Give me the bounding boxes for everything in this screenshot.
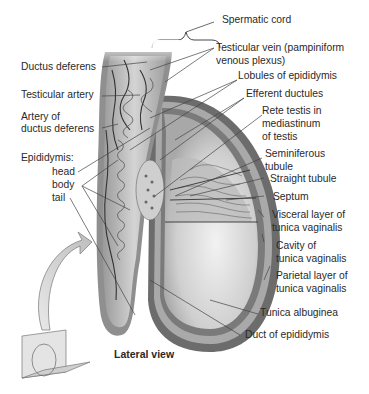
label-cavity-1: Cavity of xyxy=(276,240,316,252)
orientation-inset xyxy=(22,330,90,378)
label-visceral-1: Visceral layer of xyxy=(272,209,345,221)
label-epididymis-tail: tail xyxy=(52,192,65,204)
label-testicular-vein-2: venous plexus) xyxy=(216,55,285,67)
label-parietal-1: Parietal layer of xyxy=(276,270,348,282)
label-rete-testis-1: Rete testis in xyxy=(262,105,322,117)
orientation-arrow xyxy=(38,232,92,330)
label-epididymis: Epididymis: xyxy=(21,152,74,164)
label-seminiferous-1: Seminiferous xyxy=(265,148,325,160)
label-cavity-2: tunica vaginalis xyxy=(276,253,346,265)
label-rete-testis-2: mediastinum xyxy=(262,118,320,130)
label-epididymis-body: body xyxy=(52,179,74,191)
label-tunica-albuginea: Tunica albuginea xyxy=(260,307,338,319)
label-testicular-vein-1: Testicular vein (pampiniform xyxy=(216,42,344,54)
label-testicular-artery: Testicular artery xyxy=(21,89,94,101)
view-caption: Lateral view xyxy=(114,348,174,360)
label-spermatic-cord: Spermatic cord xyxy=(222,14,291,26)
label-lobules-of-epididymis: Lobules of epididymis xyxy=(238,70,337,82)
label-artery-ductus-2: ductus deferens xyxy=(21,123,94,135)
label-straight-tubule: Straight tubule xyxy=(270,173,336,185)
label-septum: Septum xyxy=(273,191,309,203)
label-artery-ductus-1: Artery of xyxy=(21,111,60,123)
label-parietal-2: tunica vaginalis xyxy=(276,283,346,295)
label-seminiferous-2: tubule xyxy=(265,161,293,173)
label-efferent-ductules: Efferent ductules xyxy=(246,88,323,100)
label-ductus-deferens: Ductus deferens xyxy=(21,61,96,73)
label-visceral-2: tunica vaginalis xyxy=(272,222,342,234)
label-duct-of-epididymis: Duct of epididymis xyxy=(245,329,329,341)
label-rete-testis-3: of testis xyxy=(262,131,297,143)
label-epididymis-head: head xyxy=(52,166,75,178)
